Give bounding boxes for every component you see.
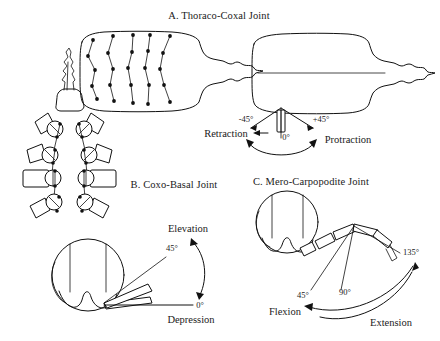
retraction-protraction-arc bbox=[249, 143, 314, 155]
panel-c-cross-section bbox=[256, 191, 419, 319]
panel-b-cross-section bbox=[52, 238, 205, 311]
panel-b-depression-label: Depression bbox=[167, 314, 215, 325]
panel-c-title: C. Mero-Carpopodite Joint bbox=[253, 176, 369, 187]
panel-c-angle-90: 90° bbox=[339, 287, 351, 297]
flexion-arrowhead bbox=[304, 303, 313, 311]
panel-a-retraction-label: Retraction bbox=[204, 128, 248, 139]
elevation-depression-arc bbox=[193, 242, 205, 295]
cephalothorax-plate bbox=[56, 89, 84, 111]
rostrum bbox=[62, 48, 75, 90]
panel-b-elevation-label: Elevation bbox=[168, 223, 209, 234]
panel-a-dorsal-trajectory-view bbox=[80, 31, 263, 112]
panel-b-angle-zero: 0° bbox=[196, 300, 204, 310]
limb-segments-proximal bbox=[300, 224, 356, 256]
panel-a-title: A. Thoraco-Coxal Joint bbox=[168, 10, 269, 21]
limb-attachment-chains bbox=[86, 33, 172, 106]
diagram-svg: A. Thoraco-Coxal Joint -45° 0° +45° Retr… bbox=[0, 0, 440, 341]
panel-c-angle-135: 135° bbox=[403, 247, 419, 257]
panel-c-flexion-label: Flexion bbox=[269, 306, 302, 317]
depression-arrowhead bbox=[196, 292, 204, 300]
figure-canvas: A. Thoraco-Coxal Joint -45° 0° +45° Retr… bbox=[0, 0, 440, 341]
panel-a-angle-zero: 0° bbox=[282, 132, 290, 142]
panel-b-ventral-view bbox=[23, 48, 116, 218]
panel-a-angle-minus45: -45° bbox=[239, 114, 254, 124]
coxo-basal-joint-pairs bbox=[23, 113, 116, 218]
flexion-extension-arc bbox=[309, 266, 413, 310]
panel-a-protraction-label: Protraction bbox=[325, 134, 372, 145]
flexion-angle-leaders bbox=[311, 226, 400, 290]
panel-b-angle-45: 45° bbox=[166, 243, 178, 253]
panel-a-angle-plus45: +45° bbox=[313, 114, 330, 124]
panel-c-extension-label: Extension bbox=[370, 317, 413, 328]
panel-c-angle-45: 45° bbox=[297, 290, 309, 300]
carapace-outline-left bbox=[80, 31, 263, 112]
elevation-arrowhead bbox=[190, 238, 198, 246]
panel-b-title: B. Coxo-Basal Joint bbox=[131, 179, 218, 190]
carapace-outline-right bbox=[252, 33, 435, 114]
